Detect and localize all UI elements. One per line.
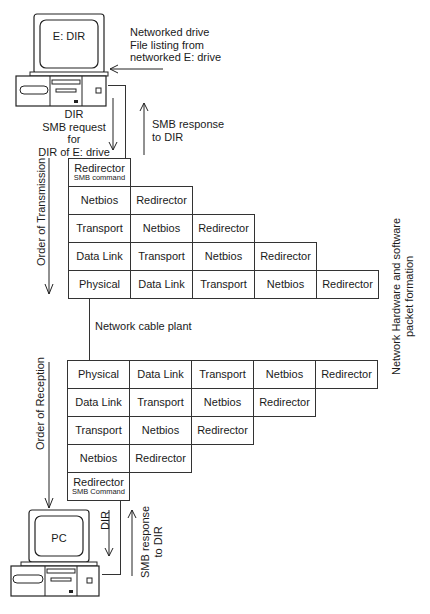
stack-cell: Netbios (192, 242, 255, 271)
stack-cell: Redirector (191, 416, 254, 445)
stack-cell: Data Link (129, 360, 192, 389)
reception-tail-cell: Redirector SMB Command (67, 472, 130, 501)
top-screen-text: E: DIR (48, 30, 90, 43)
network-cable-line (89, 298, 90, 360)
arrow-down-icon (44, 362, 54, 512)
stack-cell: Transport (191, 360, 254, 389)
packet-formation-label: Network Hardware and software packet for… (390, 218, 415, 375)
stack-cell: Redirector (254, 242, 317, 271)
stack-cell: Redirector (192, 214, 255, 243)
arrow-up-icon (127, 508, 137, 578)
connector-line (120, 500, 121, 574)
dir-request-label: DIR SMB request for DIR of E: drive (38, 108, 110, 159)
stack-cell: Redirector (129, 444, 192, 473)
stack-cell: Redirector (130, 186, 193, 215)
stack-cell: Netbios (67, 444, 130, 473)
networked-drive-label: Networked drive File listing from networ… (130, 26, 221, 64)
stack-cell: Data Link (67, 388, 130, 417)
stack-cell: Data Link (130, 270, 193, 299)
stack-cell: Netbios (129, 416, 192, 445)
stack-cell: Netbios (253, 360, 316, 389)
smb-response-bottom-label: SMB response to DIR (139, 506, 164, 578)
stack-cell: Physical (68, 270, 131, 299)
connector-line (125, 85, 126, 158)
stack-cell: Transport (68, 214, 131, 243)
stack-cell: Redirector (253, 388, 316, 417)
bottom-screen-text: PC (35, 532, 83, 545)
stack-cell: Transport (192, 270, 255, 299)
smb-response-top-label: SMB response to DIR (152, 118, 224, 143)
network-cable-label: Network cable plant (95, 320, 192, 333)
stack-cell: Netbios (191, 388, 254, 417)
transmission-head-cell: Redirector SMB command (68, 158, 131, 187)
arrow-down-icon (108, 98, 118, 153)
computer-icon-bottom (9, 508, 119, 614)
stack-cell: Netbios (254, 270, 317, 299)
arrow-down-icon (44, 158, 54, 298)
stack-cell: Transport (130, 242, 193, 271)
arrow-up-icon (139, 101, 149, 156)
stack-cell: Netbios (130, 214, 193, 243)
stack-cell: Redirector (316, 270, 379, 299)
stack-cell: Data Link (68, 242, 131, 271)
arrow-left-icon (108, 64, 168, 74)
stack-cell: Transport (129, 388, 192, 417)
stack-cell: Netbios (68, 186, 131, 215)
stack-cell: Transport (67, 416, 130, 445)
stack-cell: Redirector (315, 360, 378, 389)
stack-cell: Physical (67, 360, 130, 389)
connector-line (108, 85, 125, 86)
